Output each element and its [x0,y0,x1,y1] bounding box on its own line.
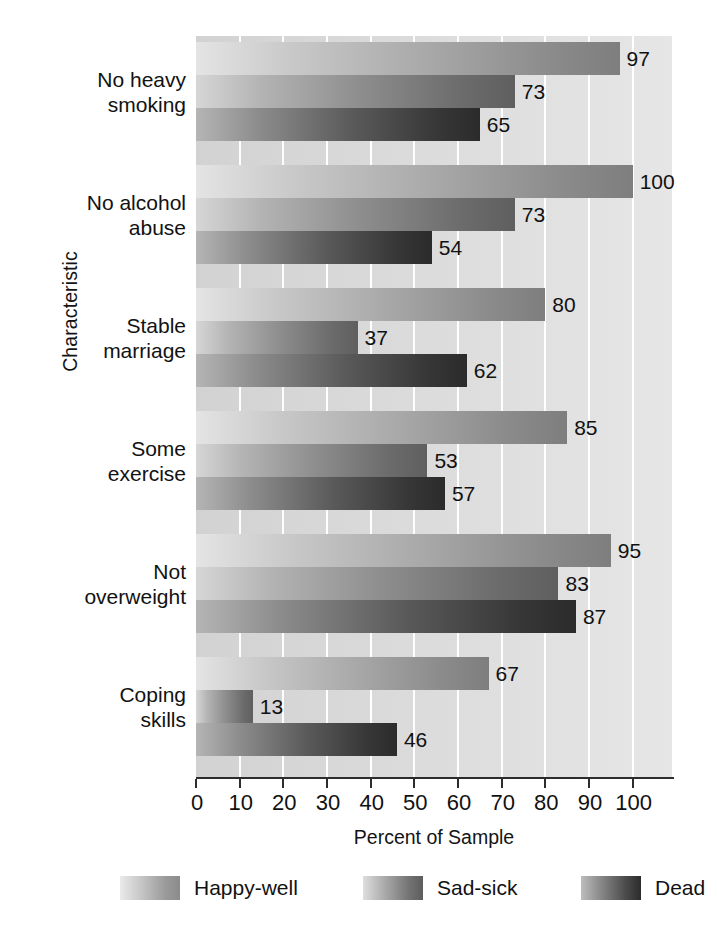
x-axis-tick [588,779,590,788]
legend-label: Dead [655,876,705,900]
bar [196,288,545,321]
legend-label: Happy-well [194,876,298,900]
x-axis-tick [632,779,634,788]
x-axis-tick-label: 100 [604,790,664,816]
bar [196,690,253,723]
gridline-100 [632,36,634,777]
bar [196,165,633,198]
bar-value-label: 53 [434,444,457,477]
bar-value-label: 80 [552,288,575,321]
category-label: No heavysmoking [0,67,186,117]
x-axis-tick [282,779,284,788]
bar [196,321,358,354]
legend-swatch-icon [363,876,423,900]
bar-value-label: 62 [474,354,497,387]
bar [196,444,427,477]
gridline-90 [588,36,590,777]
bar-value-label: 95 [618,534,641,567]
x-axis-title: Percent of Sample [196,826,672,849]
category-label: Copingskills [0,682,186,732]
x-axis-tick [370,779,372,788]
bar-value-label: 97 [627,42,650,75]
legend-item: Happy-well [120,869,298,907]
bar [196,567,558,600]
bar-value-label: 13 [260,690,283,723]
bar-value-label: 83 [565,567,588,600]
legend-item: Sad-sick [363,869,518,907]
x-axis-tick [544,779,546,788]
bar [196,600,576,633]
category-label: No alcoholabuse [0,190,186,240]
legend-item: Dead [581,869,705,907]
bar [196,231,432,264]
bar-value-label: 73 [522,75,545,108]
category-label: Someexercise [0,436,186,486]
bar-value-label: 57 [452,477,475,510]
bar [196,411,567,444]
bar [196,657,489,690]
category-label: Notoverweight [0,559,186,609]
x-axis-tick [239,779,241,788]
bar [196,477,445,510]
legend-swatch-icon [581,876,641,900]
bar [196,198,515,231]
category-label: Stablemarriage [0,313,186,363]
x-axis-tick [195,779,197,788]
gridline-80 [544,36,546,777]
bar-value-label: 46 [404,723,427,756]
bar [196,75,515,108]
x-axis-tick [413,779,415,788]
x-axis-tick [501,779,503,788]
bar-value-label: 54 [439,231,462,264]
legend-label: Sad-sick [437,876,518,900]
bar-value-label: 73 [522,198,545,231]
bar-value-label: 65 [487,108,510,141]
bar [196,534,611,567]
bar [196,723,397,756]
x-axis-tick [457,779,459,788]
bar-value-label: 67 [496,657,519,690]
bar-value-label: 37 [365,321,388,354]
chart-legend: Happy-wellSad-sickDead [120,869,700,909]
bar-value-label: 100 [640,165,675,198]
bar-value-label: 85 [574,411,597,444]
legend-swatch-icon [120,876,180,900]
bar [196,108,480,141]
bar-chart-figure: Characteristic Percent of Sample Happy-w… [0,0,717,928]
bar-value-label: 87 [583,600,606,633]
bar [196,354,467,387]
x-axis-line [196,777,674,779]
plot-area [196,36,672,777]
x-axis-tick [326,779,328,788]
bar [196,42,620,75]
